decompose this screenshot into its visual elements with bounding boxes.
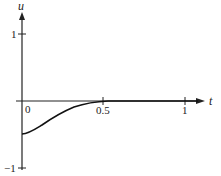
chart: u t 1 −1 0 0.5 1 <box>0 0 221 176</box>
x-tick-label-0: 0 <box>25 103 31 115</box>
y-tick-label-1: 1 <box>11 28 17 40</box>
x-tick-label-05: 0.5 <box>96 104 110 116</box>
x-tick-label-1: 1 <box>182 104 188 116</box>
y-axis-arrow-icon <box>19 12 25 20</box>
x-axis-label: t <box>209 94 213 108</box>
u-curve <box>22 101 198 134</box>
y-axis-label: u <box>18 0 24 13</box>
y-tick-label-neg1: −1 <box>4 162 16 174</box>
